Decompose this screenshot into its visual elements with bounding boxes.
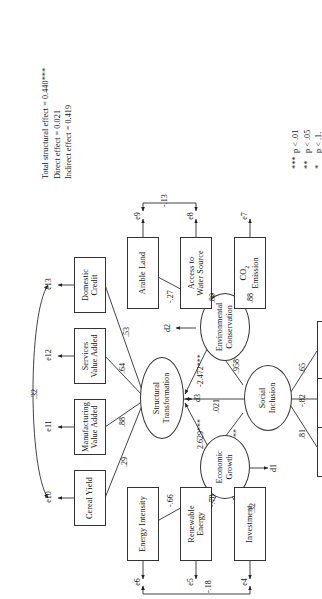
effects-note-line1: Total structural effect = 0.440***: [40, 68, 52, 179]
significance-legend: ***p < .01 **p < .05 *p < .1.: [290, 130, 322, 169]
legend-stars: **: [302, 153, 314, 169]
legend-text: p < .01: [291, 130, 300, 153]
effects-note: Total structural effect = 0.440*** Direc…: [40, 68, 75, 179]
diagram-canvas: Cereal Yield Manufacturing Value Added S…: [0, 0, 322, 599]
legend-stars: ***: [290, 153, 302, 169]
effects-note-line2: Direct effect = 0.021: [52, 68, 64, 179]
legend-row: *p < .1.: [313, 130, 322, 169]
legend-row: **p < .05: [302, 130, 314, 169]
effects-note-line3: Indirect effect = 0.419: [63, 68, 75, 179]
sem-path-diagram: Cereal Yield Manufacturing Value Added S…: [0, 0, 322, 599]
legend-row: ***p < .01: [290, 130, 302, 169]
legend-text: p < .1.: [314, 132, 322, 153]
legend-text: p < .05: [303, 130, 312, 153]
legend-stars: *: [313, 153, 322, 169]
